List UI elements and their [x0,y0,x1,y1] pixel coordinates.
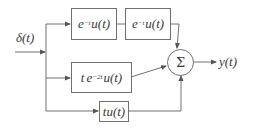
sigma-icon: Σ [176,55,185,70]
summer-node: Σ [167,49,194,76]
block-h2-exponent: −t [138,19,145,27]
block-h2-suffix: u(t) [145,16,164,32]
arrow-h4-sum [129,76,181,111]
input-label: δ(t) [16,30,34,46]
block-h3: te−2tu(t) [71,62,132,93]
block-h4-suffix: tu(t) [103,104,125,120]
output-label: y(t) [219,54,237,70]
block-h1-exponent: −t [84,19,91,27]
arrow-h3-sum [131,66,166,77]
arrow-h2-sum [171,24,179,48]
block-h3-prefix: t [81,70,85,86]
block-h3-suffix: u(t) [103,70,122,86]
block-diagram: δ(t) e−tu(t) e−tu(t) te−2tu(t) tu(t) Σ y… [0,0,260,136]
block-h3-exponent: −2t [92,73,102,81]
block-h1: e−tu(t) [71,8,117,40]
block-h1-suffix: u(t) [91,16,110,32]
block-h4: tu(t) [99,101,129,122]
block-h2: e−tu(t) [125,8,171,40]
